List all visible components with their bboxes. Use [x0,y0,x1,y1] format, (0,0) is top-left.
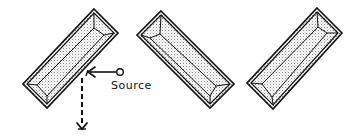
frame-3 [247,8,342,109]
source-label: Source [111,79,152,92]
source-circle-icon [117,69,124,76]
frame-2 [137,11,234,108]
source-indicator: Source [77,67,152,129]
frame-1 [23,9,118,108]
diagram-canvas: Source [0,0,362,140]
